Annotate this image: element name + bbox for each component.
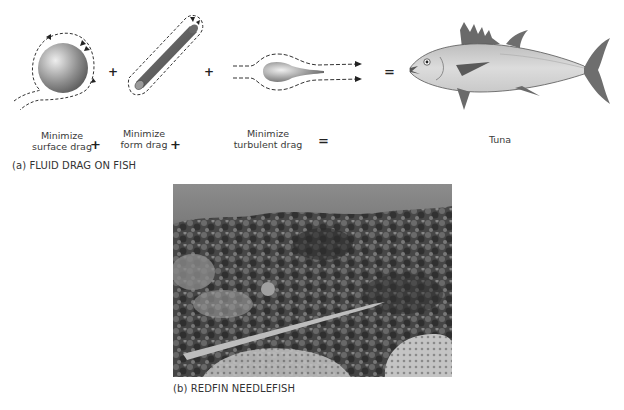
panel-b-caption: (b) REDFIN NEEDLEFISH — [173, 383, 295, 394]
needlefish-photo — [173, 184, 452, 377]
equals-operator: = — [318, 133, 329, 148]
form-drag-label: Minimize form drag — [112, 128, 176, 150]
form-drag-label-line1: Minimize — [112, 128, 176, 139]
tuna-icon — [410, 22, 610, 110]
turbulent-drag-label-line2: turbulent drag — [218, 139, 318, 150]
plus-operator-1: + — [90, 137, 101, 152]
svg-text:=: = — [384, 64, 395, 79]
tuna-label: Tuna — [470, 134, 530, 145]
svg-text:+: + — [204, 65, 214, 79]
coral-reef-image — [173, 184, 452, 377]
cylinder-flow-icon — [128, 15, 202, 94]
svg-text:+: + — [108, 65, 118, 79]
sphere-flow-icon — [14, 33, 96, 110]
turbulent-drag-label-line1: Minimize — [218, 128, 318, 139]
fluid-drag-diagram: + + = — [0, 0, 624, 130]
panel-a-caption: (a) FLUID DRAG ON FISH — [12, 160, 136, 171]
form-drag-label-line2: form drag — [112, 139, 176, 150]
plus-operator-2: + — [170, 137, 181, 152]
turbulent-drag-label: Minimize turbulent drag — [218, 128, 318, 150]
teardrop-flow-icon — [233, 54, 362, 90]
